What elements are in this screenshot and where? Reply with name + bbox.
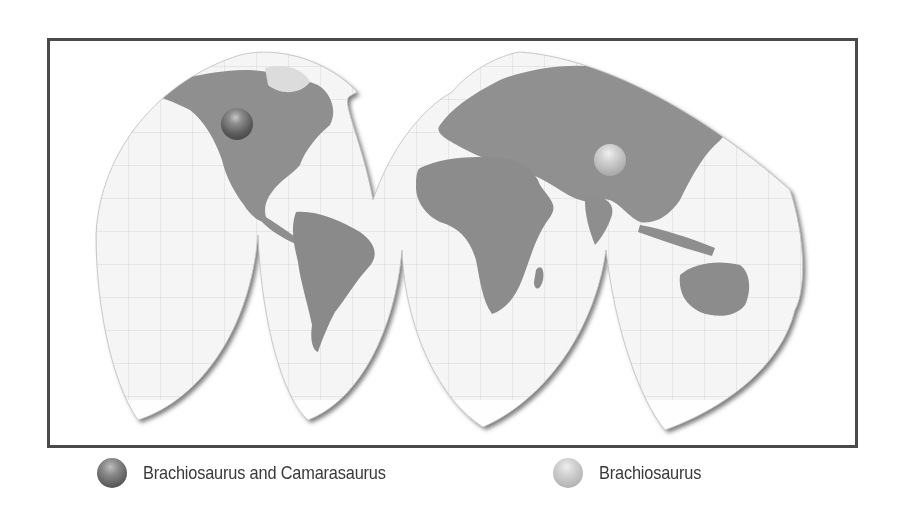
legend-item-brachiosaurus-camarasaurus: Brachiosaurus and Camarasaurus bbox=[97, 458, 425, 488]
legend-label: Brachiosaurus bbox=[599, 462, 701, 484]
dark-sphere-icon bbox=[97, 458, 127, 488]
world-map bbox=[0, 0, 902, 505]
marker-brachiosaurus-camarasaurus[interactable] bbox=[221, 108, 253, 140]
legend-label: Brachiosaurus and Camarasaurus bbox=[143, 462, 386, 484]
legend: Brachiosaurus and Camarasaurus Brachiosa… bbox=[0, 450, 902, 495]
light-sphere-icon bbox=[553, 458, 583, 488]
land-antarctica bbox=[100, 400, 800, 440]
marker-brachiosaurus[interactable] bbox=[594, 144, 626, 176]
legend-item-brachiosaurus: Brachiosaurus bbox=[553, 458, 718, 488]
